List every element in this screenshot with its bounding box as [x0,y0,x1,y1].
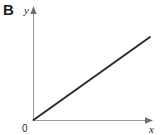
y-axis-arrow-icon [30,6,36,14]
line-chart: y x 0 [0,0,165,135]
figure-panel-b: B y x 0 [0,0,165,135]
x-axis-label: x [148,123,154,135]
y-axis-label: y [23,4,29,16]
origin-label: 0 [22,123,28,134]
data-line-series-1 [34,37,151,120]
